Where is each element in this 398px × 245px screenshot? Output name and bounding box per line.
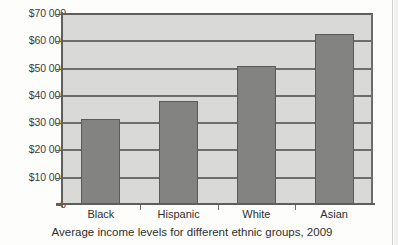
y-tick-label-50000: $50 000: [6, 62, 66, 74]
bar-asian: [315, 34, 354, 205]
plot-area-wrapper: [62, 14, 373, 205]
y-tick-label-20000: $20 000: [6, 143, 66, 155]
bar-hispanic: [159, 101, 198, 206]
y-tick-label-40000: $40 000: [6, 89, 66, 101]
page-scan-margin: [394, 0, 398, 245]
y-tick-label-70000: $70 000: [6, 7, 66, 19]
page-scan-edge: [392, 0, 393, 245]
bar-white: [237, 66, 276, 205]
chart-caption: Average income levels for different ethn…: [0, 226, 384, 238]
gridline-70000: [62, 13, 373, 15]
y-tick-label-10000: $10 000: [6, 171, 66, 183]
plot-right-border: [371, 14, 373, 205]
x-axis-line: [56, 203, 375, 205]
x-label-asian: Asian: [286, 208, 382, 220]
bar-black: [81, 119, 120, 205]
y-axis-line: [61, 12, 63, 207]
y-tick-label-60000: $60 000: [6, 34, 66, 46]
y-tick-label-30000: $30 000: [6, 116, 66, 128]
bar-chart-figure: $70 000$60 000$50 000$40 000$30 000$20 0…: [0, 0, 398, 245]
